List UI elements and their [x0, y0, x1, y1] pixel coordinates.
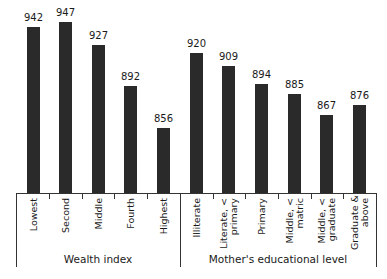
category-label-line: Lowest	[29, 198, 39, 250]
value-label: 927	[79, 30, 119, 41]
category-label: Illiterate	[192, 198, 202, 250]
category-label-line: Illiterate	[192, 198, 202, 250]
category-label-line: Graduate &	[350, 198, 360, 250]
bar	[190, 53, 203, 193]
value-label: 947	[46, 7, 86, 18]
bar	[288, 94, 301, 193]
value-label: 885	[275, 79, 315, 90]
right-axis-line	[376, 193, 377, 267]
category-label-line: Fourth	[126, 198, 136, 250]
category-label-line: Second	[61, 198, 71, 250]
category-label: Lowest	[29, 198, 39, 250]
category-label: Fourth	[126, 198, 136, 250]
x-tick	[82, 193, 83, 199]
category-label-line: Middle, <	[285, 198, 295, 250]
bar	[124, 86, 137, 193]
category-label-line: Primary	[257, 198, 267, 250]
group-label-education: Mother's educational level	[180, 253, 376, 265]
category-label: Highest	[159, 198, 169, 250]
x-tick	[278, 193, 279, 199]
group-label-wealth: Wealth index	[16, 253, 180, 265]
bar	[320, 115, 333, 193]
category-label-line: matric	[295, 198, 305, 250]
bar	[353, 105, 366, 193]
category-label-line: Middle	[94, 198, 104, 250]
bar	[255, 84, 268, 193]
value-label: 892	[111, 71, 151, 82]
x-tick	[245, 193, 246, 199]
category-label: Literate, <primary	[219, 198, 239, 250]
x-tick	[213, 193, 214, 199]
bar	[59, 22, 72, 193]
category-label-line: Highest	[159, 198, 169, 250]
x-axis-line	[16, 193, 377, 194]
category-label: Second	[61, 198, 71, 250]
value-label: 867	[307, 100, 347, 111]
category-label-line: graduate	[327, 198, 337, 250]
x-tick	[343, 193, 344, 199]
bar	[222, 66, 235, 193]
value-label: 920	[177, 38, 217, 49]
bar-chart: 942Lowest947Second927Middle892Fourth856H…	[0, 0, 387, 279]
bar	[92, 45, 105, 193]
category-label-line: Literate, <	[219, 198, 229, 250]
x-tick	[49, 193, 50, 199]
value-label: 909	[209, 51, 249, 62]
value-label: 856	[144, 113, 184, 124]
bar	[27, 27, 40, 193]
category-label-line: Middle, <	[317, 198, 327, 250]
x-tick	[114, 193, 115, 199]
category-label: Graduate &above	[350, 198, 370, 250]
category-label: Middle	[94, 198, 104, 250]
category-label-line: primary	[229, 198, 239, 250]
value-label: 876	[340, 90, 380, 101]
x-tick	[147, 193, 148, 199]
category-label-line: above	[360, 198, 370, 250]
category-label: Middle, <graduate	[317, 198, 337, 250]
category-label: Primary	[257, 198, 267, 250]
category-label: Middle, <matric	[285, 198, 305, 250]
x-tick	[311, 193, 312, 199]
bar	[157, 128, 170, 193]
